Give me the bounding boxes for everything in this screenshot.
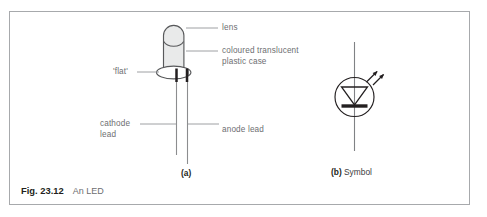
part-label-b: (b) Symbol xyxy=(331,167,372,177)
figure-caption: Fig. 23.12An LED xyxy=(21,185,104,196)
symbol-cathode-bar xyxy=(342,104,368,107)
label-plastic-case: coloured translucentplastic case xyxy=(222,46,299,67)
figure-container: lens coloured translucentplastic case 'f… xyxy=(0,0,487,217)
part-label-b-text: Symbol xyxy=(342,167,372,177)
part-label-a: (a) xyxy=(181,168,191,178)
part-label-a-letter: (a) xyxy=(181,168,191,178)
part-label-b-letter: (b) xyxy=(331,167,342,177)
led-plastic-case xyxy=(163,25,183,70)
led-flange-flat xyxy=(157,66,191,79)
caption-number: Fig. 23.12 xyxy=(21,185,64,196)
caption-text: An LED xyxy=(73,186,104,196)
led-pictorial xyxy=(137,25,219,164)
symbol-emission-arrows xyxy=(367,71,385,85)
label-case-line1: coloured translucent xyxy=(222,46,299,55)
label-anode-lead: anode lead xyxy=(222,125,264,136)
led-symbol xyxy=(335,42,384,151)
label-case-line2: plastic case xyxy=(222,57,267,66)
label-cathode-line2: lead xyxy=(100,130,116,139)
label-lens: lens xyxy=(222,23,238,34)
label-flat: 'flat' xyxy=(113,67,128,78)
label-cathode-line1: cathode xyxy=(100,119,130,128)
label-cathode-lead: cathodelead xyxy=(100,119,130,140)
